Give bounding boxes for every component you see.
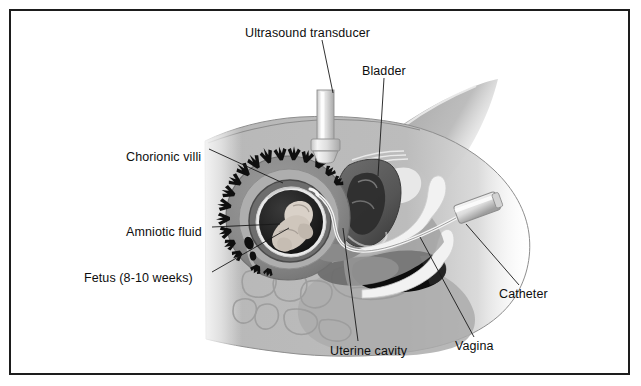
label-ultrasound-transducer: Ultrasound transducer xyxy=(245,27,370,40)
transducer-footplate xyxy=(313,151,338,163)
label-amniotic-fluid: Amniotic fluid xyxy=(126,226,202,239)
leader-ultrasound-transducer xyxy=(322,40,333,93)
figure-container: Ultrasound transducer Bladder Chorionic … xyxy=(0,0,641,386)
transducer-shaft xyxy=(317,90,334,146)
transducer-collar xyxy=(311,139,340,151)
label-uterine-cavity: Uterine cavity xyxy=(330,345,407,358)
label-catheter: Catheter xyxy=(499,288,548,301)
label-chorionic-villi: Chorionic villi xyxy=(126,151,201,164)
anatomical-illustration xyxy=(0,0,641,386)
label-fetus: Fetus (8-10 weeks) xyxy=(84,272,193,285)
label-vagina: Vagina xyxy=(455,340,494,353)
label-bladder: Bladder xyxy=(362,65,406,78)
